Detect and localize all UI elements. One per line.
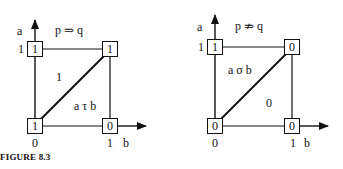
b-axis-label: b	[304, 137, 310, 149]
corner-bottom-left: 1	[27, 118, 43, 134]
upper-region-label: a σ b	[228, 64, 252, 76]
a-axis-label: a	[17, 25, 22, 37]
lower-region-label: a τ b	[74, 100, 96, 112]
b-tick-label: 1	[290, 137, 296, 149]
corner-top-right: 0	[284, 39, 300, 55]
corner-bottom-left: 0	[207, 118, 223, 134]
corner-bottom-right: 0	[284, 118, 300, 134]
origin-tick-label: 0	[212, 137, 218, 149]
upper-region-label: 1	[56, 71, 62, 83]
origin-tick-label: 0	[32, 137, 38, 149]
a-tick-label: 1	[18, 43, 24, 55]
corner-top-left: 1	[207, 39, 223, 55]
a-tick-label: 1	[198, 41, 204, 53]
b-axis-label: b	[123, 137, 129, 149]
corner-top-left: 1	[27, 41, 43, 57]
diagram-title: p ⇒ q	[55, 24, 83, 36]
figure-caption: FIGURE 8.3	[0, 152, 51, 162]
corner-top-right: 1	[102, 41, 118, 57]
b-tick-label: 1	[107, 137, 113, 149]
diagram-title: p ⇏ q	[235, 20, 263, 32]
lower-region-label: 0	[266, 97, 272, 109]
corner-bottom-right: 0	[102, 118, 118, 134]
a-axis-label: a	[197, 21, 202, 33]
